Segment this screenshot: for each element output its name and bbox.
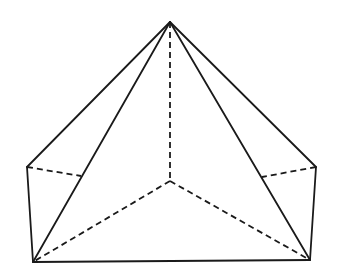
dashed-edges <box>27 22 316 262</box>
solid-edges <box>27 22 316 262</box>
edge-left_upper-left_hidden_mid <box>27 167 81 176</box>
edge-center_hidden-bottom_right <box>170 181 310 260</box>
edge-center_hidden-bottom_left <box>33 181 170 262</box>
edge-right_upper-right_hidden_mid <box>262 167 316 177</box>
edge-left_upper-bottom_left <box>27 167 33 262</box>
edge-apex-left_upper <box>27 22 170 167</box>
edge-bottom_left-bottom_right <box>33 260 310 262</box>
edge-apex-bottom_left <box>33 22 170 262</box>
pyramid-diagram <box>0 0 343 275</box>
edge-right_upper-bottom_right <box>310 167 316 260</box>
